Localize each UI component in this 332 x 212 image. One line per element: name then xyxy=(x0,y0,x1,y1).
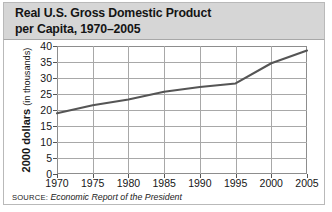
series-line-real-gdp-per-capita xyxy=(57,50,307,113)
y-axis-title-unit: (in thousands) xyxy=(22,48,32,106)
y-axis-title-main: 2000 dollars xyxy=(20,109,32,173)
source-note: SOURCE: Economic Report of the President xyxy=(12,192,182,202)
source-label: SOURCE: xyxy=(12,193,48,202)
source-reference: Economic Report of the President xyxy=(50,192,182,202)
y-axis-title: 2000 dollars (in thousands) xyxy=(20,43,32,178)
plot-area: 4035302520151050 19701975198019851990199… xyxy=(0,0,332,212)
chart-figure: Real U.S. Gross Domestic Product per Cap… xyxy=(0,0,332,212)
series-layer xyxy=(0,0,332,212)
